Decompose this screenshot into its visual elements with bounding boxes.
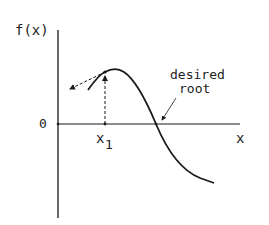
x1-label: x: [96, 130, 104, 146]
origin-label: 0: [39, 116, 47, 131]
tangent-line-arrow: [70, 72, 105, 89]
x1-subscript: 1: [105, 137, 113, 152]
x1-point: [104, 123, 107, 126]
root-point: [155, 123, 158, 126]
x-axis-label: x: [236, 130, 244, 146]
newton-method-diagram: f(x) x 0 x 1 desired root: [0, 0, 269, 225]
y-axis-label: f(x): [15, 22, 49, 38]
origin-dot: [57, 123, 60, 126]
annotation-root: root: [179, 81, 210, 96]
root-pointer-arrow: [162, 98, 176, 120]
annotation-desired: desired: [170, 67, 225, 82]
